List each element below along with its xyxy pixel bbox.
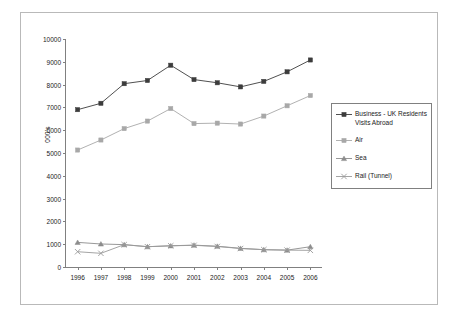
data-point-marker [238, 122, 242, 126]
x-axis-tick-mark [171, 267, 172, 270]
y-axis-tick-label: 3000 [47, 195, 61, 202]
legend-marker-square-icon [335, 110, 353, 119]
x-axis-tick-mark [194, 267, 195, 270]
data-point-marker [285, 104, 289, 108]
data-point-marker [99, 138, 103, 142]
y-axis-tick-mark [63, 62, 66, 63]
y-axis-tick-label: 7000 [47, 104, 61, 111]
data-point-marker [308, 58, 312, 62]
data-point-marker [99, 101, 103, 105]
x-axis-tick-label: 1997 [94, 274, 108, 281]
data-point-marker [192, 77, 196, 81]
legend-item-label: Air [353, 136, 363, 145]
y-axis-tick-mark [63, 85, 66, 86]
legend-marker-square-icon [335, 136, 353, 145]
legend-marker-cross-icon [335, 172, 353, 181]
y-axis-tick-mark [63, 221, 66, 222]
y-axis-tick-label: 6000 [47, 127, 61, 134]
x-axis-tick-mark [78, 267, 79, 270]
y-axis-tick-label: 5000 [47, 150, 61, 157]
y-axis-tick-label: 4000 [47, 172, 61, 179]
data-point-marker [122, 82, 126, 86]
y-axis-tick-label: 8000 [47, 81, 61, 88]
y-axis-tick-label: 2000 [47, 218, 61, 225]
chart-legend: Business - UK Residents Visits AbroadAir… [331, 103, 432, 189]
y-axis-tick-label: 9000 [47, 58, 61, 65]
line-chart: 000's 0100020003000400050006000700080009… [21, 13, 439, 306]
plot-series-layer [66, 39, 322, 267]
x-axis-tick-label: 2003 [233, 274, 247, 281]
legend-item[interactable]: Sea [335, 154, 427, 163]
data-point-marker [145, 78, 149, 82]
figure-frame: 000's 0100020003000400050006000700080009… [20, 12, 438, 305]
series-line [78, 60, 311, 110]
data-point-marker [122, 127, 126, 131]
x-axis-tick-label: 2002 [210, 274, 224, 281]
data-point-marker [145, 119, 149, 123]
x-axis-tick-mark [147, 267, 148, 270]
x-axis-tick-label: 1999 [140, 274, 154, 281]
legend-item-label: Sea [353, 154, 367, 163]
y-axis-tick-mark [63, 199, 66, 200]
y-axis-tick-mark [63, 244, 66, 245]
x-axis-tick-mark [217, 267, 218, 270]
legend-item[interactable]: Business - UK Residents Visits Abroad [335, 110, 427, 127]
x-axis-tick-mark [310, 267, 311, 270]
y-axis-tick-mark [63, 267, 66, 268]
data-point-marker [76, 108, 80, 112]
x-axis-tick-label: 2005 [280, 274, 294, 281]
series-1 [76, 58, 313, 112]
data-point-marker [262, 79, 266, 83]
x-axis-tick-label: 2006 [303, 274, 317, 281]
data-point-marker [238, 85, 242, 89]
x-axis-tick-label: 2001 [187, 274, 201, 281]
y-axis-tick-mark [63, 107, 66, 108]
x-axis-tick-label: 1996 [70, 274, 84, 281]
legend-marker-triangle-icon [335, 154, 353, 163]
y-axis-tick-label: 0 [57, 264, 61, 271]
data-point-marker [262, 114, 266, 118]
legend-item[interactable]: Air [335, 136, 427, 145]
plot-area: 0100020003000400050006000700080009000100… [65, 39, 322, 268]
data-point-marker [169, 106, 173, 110]
x-axis-tick-mark [287, 267, 288, 270]
data-point-marker [285, 70, 289, 74]
x-axis-tick-mark [264, 267, 265, 270]
data-point-marker [308, 93, 312, 97]
y-axis-tick-label: 10000 [43, 36, 61, 43]
y-axis-tick-mark [63, 176, 66, 177]
y-axis-tick-mark [63, 130, 66, 131]
data-point-marker [169, 63, 173, 67]
y-axis-tick-mark [63, 153, 66, 154]
y-axis-tick-mark [63, 39, 66, 40]
legend-item[interactable]: Rail (Tunnel) [335, 172, 427, 181]
y-axis-tick-label: 1000 [47, 241, 61, 248]
data-point-marker [192, 121, 196, 125]
legend-item-label: Rail (Tunnel) [353, 172, 392, 181]
series-2 [76, 93, 313, 152]
x-axis-tick-label: 1998 [117, 274, 131, 281]
legend-item-label: Business - UK Residents Visits Abroad [353, 110, 427, 127]
data-point-marker [215, 121, 219, 125]
data-point-marker [215, 81, 219, 85]
x-axis-tick-mark [124, 267, 125, 270]
series-3 [75, 240, 313, 252]
data-point-marker [76, 148, 80, 152]
x-axis-tick-label: 2000 [163, 274, 177, 281]
x-axis-tick-mark [241, 267, 242, 270]
x-axis-tick-label: 2004 [257, 274, 271, 281]
x-axis-tick-mark [101, 267, 102, 270]
